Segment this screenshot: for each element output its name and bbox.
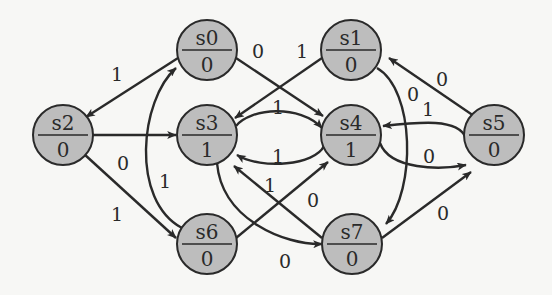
state-node-s0: s0 0 (177, 20, 237, 80)
state-output: 0 (201, 247, 214, 271)
state-node-s1: s1 0 (321, 20, 381, 80)
state-name: s7 (341, 220, 364, 244)
state-output: 0 (346, 247, 359, 271)
state-node-s4: s4 1 (321, 105, 381, 165)
state-node-s2: s2 0 (33, 105, 93, 165)
edge-label-s4-s3: 1 (272, 145, 284, 167)
edge-label-s0-s2: 1 (111, 63, 123, 85)
state-output: 0 (57, 138, 70, 162)
edge-s6-s0 (146, 68, 182, 228)
edge-label-s7-s5: 0 (437, 202, 449, 224)
state-name: s1 (340, 26, 363, 50)
state-node-s3: s3 1 (177, 105, 237, 165)
state-output: 0 (345, 53, 358, 77)
edge-label-s1-s7: 0 (407, 83, 419, 105)
state-name: s5 (483, 111, 506, 135)
edge-s5-s4 (383, 123, 466, 138)
edge-s0-s2 (86, 58, 178, 117)
edge-label-s2-s3: 0 (117, 152, 129, 174)
edge-label-s0-s4: 0 (252, 40, 264, 62)
edge-label-s2-s6: 1 (111, 203, 123, 225)
edges: 1 0 1 0 0 1 1 0 1 0 0 1 (84, 40, 474, 272)
state-name: s0 (196, 26, 219, 50)
edge-label-s5-s1: 0 (436, 68, 448, 90)
state-output: 1 (201, 138, 214, 162)
state-output: 1 (345, 138, 358, 162)
state-node-s7: s7 0 (322, 214, 382, 274)
edge-label-s7-s3: 1 (264, 174, 276, 196)
edge-label-s1-s3: 1 (296, 40, 308, 62)
edge-label-s4-s5: 0 (423, 145, 435, 167)
edge-s2-s6 (84, 154, 176, 238)
state-node-s6: s6 0 (177, 214, 237, 274)
state-name: s2 (52, 111, 75, 135)
edge-label-s5-s4: 1 (422, 98, 434, 120)
edge-label-s6-s4: 0 (307, 189, 319, 211)
state-name: s3 (196, 111, 219, 135)
state-node-s5: s5 0 (464, 105, 524, 165)
state-output: 0 (488, 138, 501, 162)
edge-label-s3-s7: 0 (279, 250, 291, 272)
state-diagram: 1 0 1 0 0 1 1 0 1 0 0 1 (0, 0, 552, 295)
edge-label-s3-s4: 1 (272, 96, 284, 118)
edge-label-s6-s0: 1 (159, 170, 171, 192)
state-output: 0 (201, 53, 214, 77)
edge-s7-s5 (382, 172, 471, 238)
state-name: s4 (340, 111, 363, 135)
state-name: s6 (196, 220, 219, 244)
